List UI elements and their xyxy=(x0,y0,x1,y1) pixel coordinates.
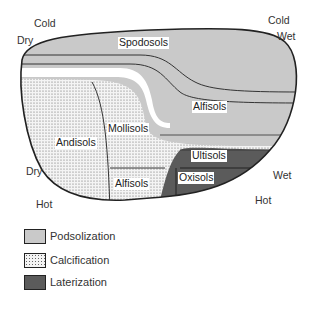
label-dry-top-left: Dry xyxy=(17,35,33,46)
soil-label-alfisols-upper: Alfisols xyxy=(192,101,227,113)
label-wet-bottom-right: Wet xyxy=(273,170,291,181)
soil-label-ultisols: Ultisols xyxy=(191,150,227,162)
soil-label-oxisols: Oxisols xyxy=(178,172,214,184)
label-hot-bottom-left: Hot xyxy=(36,199,52,210)
label-hot-bottom-right: Hot xyxy=(255,195,271,206)
calcification-swatch-icon xyxy=(24,253,46,268)
label-cold-top-right: Cold xyxy=(268,15,290,26)
legend-item-podsolization: Podsolization xyxy=(24,227,115,245)
laterization-swatch-icon xyxy=(24,275,46,290)
label-wet-top-right: Wet xyxy=(277,31,295,42)
label-dry-bottom-left: Dry xyxy=(26,166,42,177)
label-cold-top-left: Cold xyxy=(34,18,56,29)
soil-label-andisols: Andisols xyxy=(55,137,97,149)
soil-label-spodosols: Spodosols xyxy=(118,37,169,49)
soil-label-mollisols: Mollisols xyxy=(107,123,149,135)
legend-item-calcification: Calcification xyxy=(24,251,109,269)
podsolization-swatch-icon xyxy=(24,229,46,244)
soil-label-alfisols-lower: Alfisols xyxy=(114,178,149,190)
legend-item-laterization: Laterization xyxy=(24,273,107,291)
